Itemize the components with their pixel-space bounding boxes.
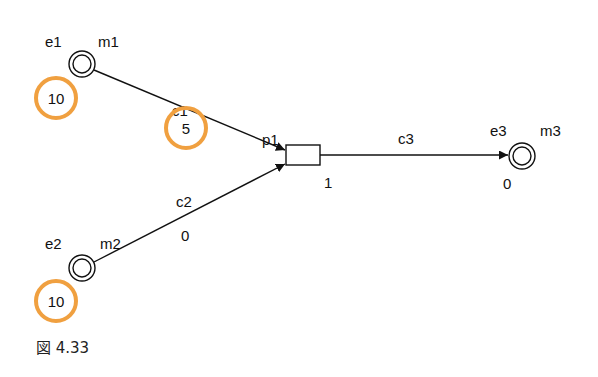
petri-net-diagram: e1 m1 10 c1 5 p1 1 c3 e3 m3 0 c2 0 e2 m2… xyxy=(0,0,598,377)
event-label-e2: e2 xyxy=(45,235,62,252)
transition-value-p1: 1 xyxy=(324,174,332,191)
token-count-m2: 10 xyxy=(48,293,65,310)
arc-c2 xyxy=(94,164,285,262)
arc-value-c1: 5 xyxy=(182,120,190,137)
arc-label-c2: c2 xyxy=(176,193,192,210)
place-inner-circle xyxy=(73,55,91,73)
transition-label-p1: p1 xyxy=(262,131,279,148)
event-label-e1: e1 xyxy=(45,33,62,50)
token-count-m1: 10 xyxy=(48,90,65,107)
transition-p1: p1 1 xyxy=(262,131,332,191)
place-label-m1: m1 xyxy=(98,33,119,50)
place-m3: e3 m3 0 xyxy=(490,122,561,192)
arc-label-c3: c3 xyxy=(398,130,414,147)
place-label-m3: m3 xyxy=(540,122,561,139)
transition-box xyxy=(286,145,320,165)
figure-caption: 図 4.33 xyxy=(36,339,89,357)
place-label-m2: m2 xyxy=(100,235,121,252)
arc-value-c2: 0 xyxy=(181,227,189,244)
place-m2: e2 m2 10 xyxy=(36,235,121,321)
token-count-m3: 0 xyxy=(503,175,511,192)
event-label-e3: e3 xyxy=(490,122,507,139)
place-inner-circle xyxy=(73,259,91,277)
place-inner-circle xyxy=(513,147,531,165)
